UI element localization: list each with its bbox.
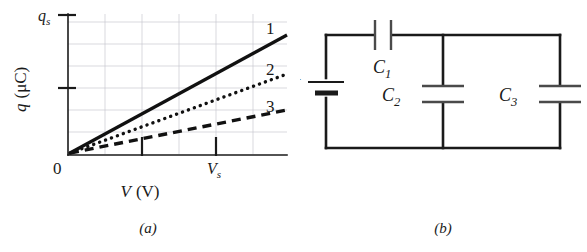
capacitor-c2-label: C2 bbox=[382, 85, 401, 109]
x-axis-tick-label-vs: Vs bbox=[207, 160, 222, 180]
x-axis-title: V(V) bbox=[121, 182, 160, 201]
curve-2-dotted bbox=[70, 74, 287, 153]
y-axis-title: q(μC) bbox=[11, 67, 30, 112]
curve-label-2: 2 bbox=[266, 60, 275, 79]
capacitor-c3-label: C3 bbox=[499, 85, 517, 109]
panel-a-graph: qs q(μC) 0 Vs V(V) 1 2 3 (a) bbox=[0, 0, 300, 252]
circuit-svg: V C1 C2 C3 bbox=[300, 0, 587, 252]
origin-label: 0 bbox=[53, 159, 62, 178]
graph-svg: qs q(μC) 0 Vs V(V) 1 2 3 (a) bbox=[0, 0, 300, 252]
capacitor-c1-label: C1 bbox=[373, 57, 391, 81]
y-axis-ticks bbox=[58, 15, 76, 88]
curve-label-3: 3 bbox=[266, 97, 275, 116]
capacitor-c2-plates bbox=[422, 86, 464, 102]
capacitor-c3-plates bbox=[539, 86, 581, 102]
caption-b: (b) bbox=[434, 220, 452, 237]
curve-3-dashed bbox=[70, 110, 287, 153]
curve-1-solid bbox=[70, 35, 287, 153]
caption-a: (a) bbox=[139, 220, 157, 237]
y-axis-top-tick-label: qs bbox=[38, 7, 51, 27]
curve-label-1: 1 bbox=[266, 19, 275, 38]
panel-b-circuit: V C1 C2 C3 bbox=[300, 0, 587, 252]
capacitor-c1-plates bbox=[375, 20, 391, 50]
battery-label-v: V bbox=[300, 76, 301, 96]
figure-root: qs q(μC) 0 Vs V(V) 1 2 3 (a) bbox=[0, 0, 587, 252]
battery-symbol bbox=[308, 82, 344, 93]
